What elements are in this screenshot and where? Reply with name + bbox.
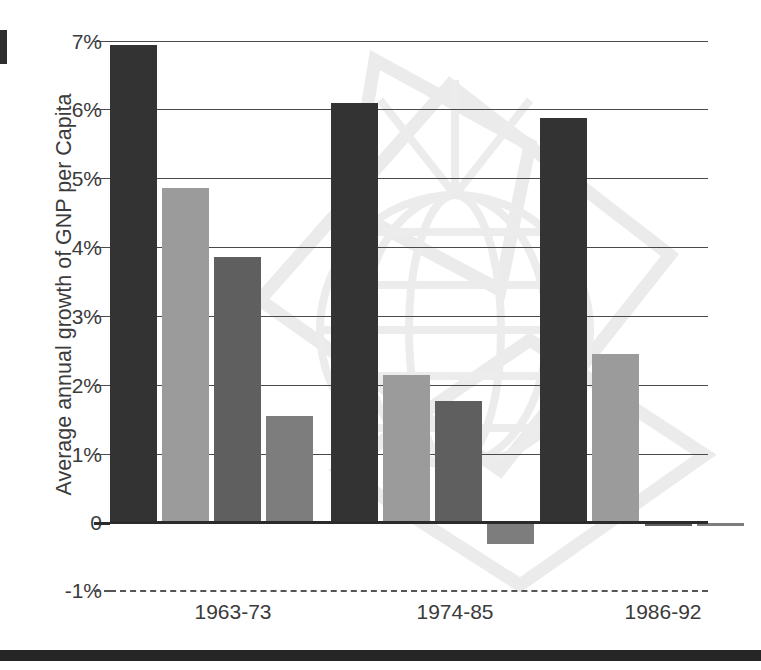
ytick-dash-6 — [94, 109, 110, 110]
ytick-dash-4 — [94, 247, 110, 248]
ytick-dash-0 — [94, 522, 110, 525]
chart-figure: 7% 6% 5% 4% 3% 2% 1% 0 -1% Average annua… — [0, 0, 761, 670]
bar-1963-73-series-3 — [214, 257, 261, 523]
left-edge-crop-mark — [0, 30, 7, 64]
bar-1963-73-series-2 — [162, 188, 209, 523]
gridline-5 — [110, 178, 708, 179]
xtick-label-1963-73: 1963-73 — [133, 600, 333, 624]
ytick-dash-1 — [94, 454, 110, 455]
bar-1963-73-series-4 — [266, 416, 313, 523]
bar-1974-85-series-4 — [487, 523, 534, 544]
ytick-dash-2 — [94, 385, 110, 386]
ytick-dash-5 — [94, 178, 110, 179]
y-axis-title: Average annual growth of GNP per Capita — [52, 35, 77, 555]
xtick-label-1974-85: 1974-85 — [355, 600, 555, 624]
bar-1974-85-series-2 — [383, 375, 430, 523]
gridline-6 — [110, 109, 708, 110]
gridline-7 — [110, 41, 708, 42]
ytick-dash-7 — [94, 41, 110, 42]
xtick-label-1986-92: 1986-92 — [563, 600, 761, 624]
bar-1974-85-series-1 — [331, 103, 378, 523]
bar-1974-85-series-3 — [435, 401, 482, 523]
ytick-dash-neg1 — [94, 590, 110, 592]
zero-axis-line — [110, 521, 708, 524]
bar-1986-92-series-2 — [592, 354, 639, 523]
ytick-label-neg1: -1% — [40, 579, 102, 603]
bar-1986-92-series-1 — [540, 118, 587, 523]
bottom-rule — [0, 650, 761, 661]
bar-1963-73-series-1 — [110, 45, 157, 523]
negative-one-percent-dashed-line — [110, 590, 708, 592]
ytick-dash-3 — [94, 316, 110, 317]
